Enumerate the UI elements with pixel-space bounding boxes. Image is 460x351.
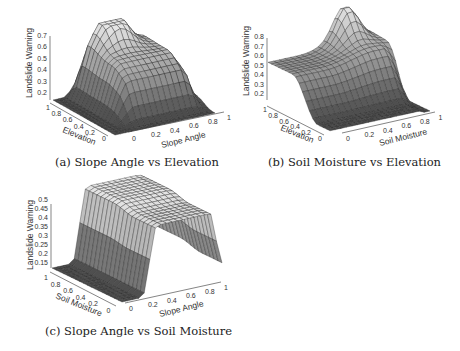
tick-label: 0.8 [420, 118, 430, 125]
tick-label: 0.3 [38, 232, 48, 239]
tick-label: 0.5 [38, 196, 48, 203]
tick-label: 0.5 [37, 55, 47, 62]
surface-c [52, 175, 222, 302]
tick-label: 0.8 [205, 288, 215, 295]
surface-plot-a: 0.20.30.40.50.60.7 Landslide Warning 10.… [0, 0, 230, 150]
tick-label: 0 [102, 135, 106, 142]
tick-label: 0.7 [37, 32, 47, 39]
tick-label: 0.4 [383, 127, 393, 134]
tick-label: 0 [132, 135, 136, 142]
tick-label: 0 [107, 307, 111, 314]
chart-panel-c: 0.150.20.250.30.350.40.450.5 Landslide W… [0, 190, 230, 351]
tick-label: 0.4 [170, 127, 180, 134]
tick-label: 0.8 [51, 110, 61, 117]
tick-label: 0.3 [254, 81, 264, 88]
tick-label: 0 [318, 135, 322, 142]
caption-b: (b) Soil Moisture vs Elevation [268, 155, 441, 169]
chart-panel-b: 0.20.30.40.50.60.70.8 Landslide Warning … [230, 0, 460, 175]
chart-panel-a: 0.20.30.40.50.60.7 Landslide Warning 10.… [0, 0, 230, 175]
caption-a: (a) Slope Angle vs Elevation [55, 155, 219, 169]
tick-label: 0.2 [254, 90, 264, 97]
tick-label: 0.6 [37, 43, 47, 50]
tick-label: 0.7 [254, 43, 264, 50]
tick-label: 0.5 [254, 62, 264, 69]
tick-label: 0.3 [37, 78, 47, 85]
tick-label: 0.25 [34, 241, 48, 248]
surface-plot-b: 0.20.30.40.50.60.70.8 Landslide Warning … [230, 0, 460, 150]
x-axis-label-a: Slope Angle [160, 129, 207, 150]
tick-label: 0.6 [186, 292, 196, 299]
tick-label: 0.15 [34, 259, 48, 266]
tick-label: 0.35 [34, 223, 48, 230]
tick-label: 0 [129, 305, 133, 312]
x-axis-label-c: Slope Angle [158, 298, 205, 319]
tick-label: 0.2 [148, 301, 158, 308]
tick-label: 0.45 [34, 205, 48, 212]
z-axis-label-a: Landslide Warning [24, 28, 34, 98]
tick-label: 0.2 [37, 89, 47, 96]
tick-label: 0 [346, 135, 350, 142]
tick-label: 1 [46, 104, 50, 111]
tick-label: 0.6 [402, 122, 412, 129]
tick-label: 0.4 [167, 297, 177, 304]
tick-label: 0.4 [38, 214, 48, 221]
tick-label: 1 [439, 114, 443, 121]
z-axis-label-c: Landslide Warning [25, 200, 35, 270]
tick-label: 0.8 [51, 281, 61, 288]
tick-label: 1 [263, 106, 267, 113]
tick-label: 0.8 [268, 112, 278, 119]
tick-label: 0.8 [254, 33, 264, 40]
tick-label: 0.2 [38, 250, 48, 257]
tick-label: 1 [224, 284, 228, 291]
tick-label: 0.4 [37, 66, 47, 73]
surface-b [268, 7, 430, 131]
tick-label: 0.8 [208, 118, 218, 125]
tick-label: 1 [44, 274, 48, 281]
tick-label: 0.4 [254, 71, 264, 78]
surface-plot-c: 0.150.20.250.30.350.40.450.5 Landslide W… [0, 190, 230, 330]
surface-a [53, 19, 215, 135]
tick-label: 0.6 [189, 122, 199, 129]
tick-label: 0.6 [63, 116, 73, 123]
tick-label: 0.2 [365, 131, 375, 138]
z-axis-label-b: Landslide Warning [241, 26, 251, 96]
tick-label: 0.6 [254, 52, 264, 59]
tick-label: 0.2 [151, 131, 161, 138]
caption-c: (c) Slope Angle vs Soil Moisture [45, 324, 232, 338]
